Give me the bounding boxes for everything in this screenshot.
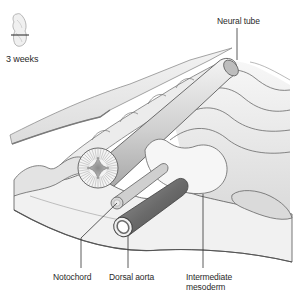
stage-label: 3 weeks (6, 54, 38, 64)
notochord-label: Notochord (53, 272, 91, 282)
dorsal-aorta-label: Dorsal aorta (109, 272, 154, 282)
embryo-thumbnail-icon (11, 14, 29, 47)
neural-tube-cross-section (78, 148, 118, 188)
intermediate-mesoderm-label-line2: mesoderm (186, 282, 225, 292)
intermediate-mesoderm-label-line1: Intermediate (186, 272, 232, 282)
embryo-cross-section-diagram (0, 0, 293, 299)
neural-tube-label: Neural tube (217, 16, 260, 26)
